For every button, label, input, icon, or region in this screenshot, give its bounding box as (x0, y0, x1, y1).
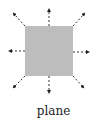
plane-square (25, 26, 73, 76)
diagram-label: plane (0, 104, 107, 118)
arrow-up-right-icon (73, 14, 84, 26)
arrow-down-left-icon (14, 76, 25, 87)
plane-diagram (0, 0, 107, 120)
arrow-up-left-icon (14, 14, 25, 26)
arrow-down-right-icon (73, 76, 83, 87)
